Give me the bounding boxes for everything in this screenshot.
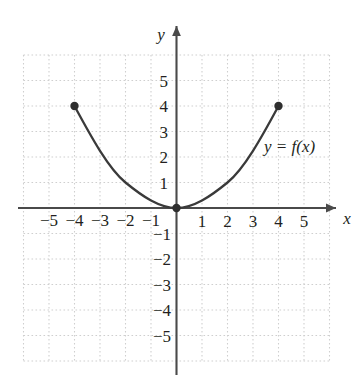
function-annotation-label: y = f(x): [262, 137, 315, 156]
x-tick-label-3: 3: [249, 212, 258, 231]
endpoint-dot-right: [274, 102, 282, 110]
x-tick-label-1: 1: [198, 212, 207, 231]
x-tick-label-4: 4: [274, 212, 283, 231]
x-axis-label: x: [342, 209, 351, 228]
endpoint-dot-left: [70, 102, 78, 110]
x-tick-label--2: −2: [116, 211, 134, 230]
x-tick-label--5: −5: [40, 211, 58, 230]
y-tick-label-4: 4: [160, 97, 169, 116]
y-tick-label-5: 5: [160, 72, 169, 91]
x-tick-label-2: 2: [223, 212, 232, 231]
y-tick-label--4: −4: [153, 301, 172, 320]
y-tick-label-2: 2: [160, 148, 169, 167]
x-tick-label--3: −3: [91, 211, 109, 230]
y-tick-label-1: 1: [160, 174, 169, 193]
coordinate-plane-svg: y x −5 −4 −3 −2 −1 1 2 3 4 5 5 4 3 2 1 −…: [0, 0, 362, 392]
vertex-dot-origin: [172, 204, 180, 212]
y-tick-label--5: −5: [153, 327, 171, 346]
x-tick-label-5: 5: [300, 212, 309, 231]
y-axis: [172, 26, 181, 375]
x-tick-label--4: −4: [65, 211, 84, 230]
y-tick-label--1: −1: [153, 225, 171, 244]
graph-figure: y x −5 −4 −3 −2 −1 1 2 3 4 5 5 4 3 2 1 −…: [0, 0, 362, 392]
y-axis-label: y: [155, 25, 165, 44]
y-tick-label--2: −2: [153, 250, 171, 269]
y-tick-label--3: −3: [153, 276, 171, 295]
y-tick-label-3: 3: [160, 123, 169, 142]
